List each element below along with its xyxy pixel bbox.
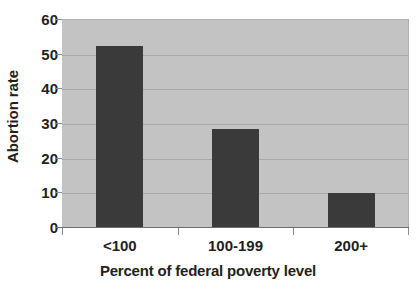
y-axis-tick-label: 50 bbox=[24, 46, 58, 61]
bars-layer bbox=[62, 20, 409, 227]
y-axis-title-label: Abortion rate bbox=[4, 70, 21, 163]
bar-chart-figure: Abortion rate 0102030405060 <100100-1992… bbox=[0, 0, 416, 295]
y-axis-tick-label: 20 bbox=[24, 150, 58, 165]
x-axis-tick-marks bbox=[62, 228, 409, 235]
x-axis-tick-label: 100-199 bbox=[208, 236, 263, 256]
y-axis-tick-label: 60 bbox=[24, 12, 58, 27]
x-axis-tick-mark bbox=[293, 228, 294, 235]
x-axis-tick-label: 200+ bbox=[334, 236, 368, 256]
y-axis-title: Abortion rate bbox=[0, 0, 24, 232]
plot-area bbox=[62, 19, 409, 227]
bar bbox=[212, 129, 259, 227]
x-axis-title: Percent of federal poverty level bbox=[0, 262, 416, 279]
y-axis-tick-labels: 0102030405060 bbox=[24, 19, 58, 227]
y-axis-tick-label: 40 bbox=[24, 81, 58, 96]
x-axis-tick-mark bbox=[178, 228, 179, 235]
x-axis-tick-mark bbox=[62, 228, 63, 235]
bar bbox=[328, 193, 375, 227]
x-axis-tick-mark bbox=[408, 228, 409, 235]
plot-right-border bbox=[408, 19, 409, 227]
y-axis-tick-label: 10 bbox=[24, 185, 58, 200]
y-axis-tick-label: 0 bbox=[24, 220, 58, 235]
y-axis-tick-label: 30 bbox=[24, 116, 58, 131]
x-axis-tick-label: <100 bbox=[103, 236, 137, 256]
x-axis-tick-labels: <100100-199200+ bbox=[62, 236, 409, 258]
bar bbox=[96, 46, 143, 227]
